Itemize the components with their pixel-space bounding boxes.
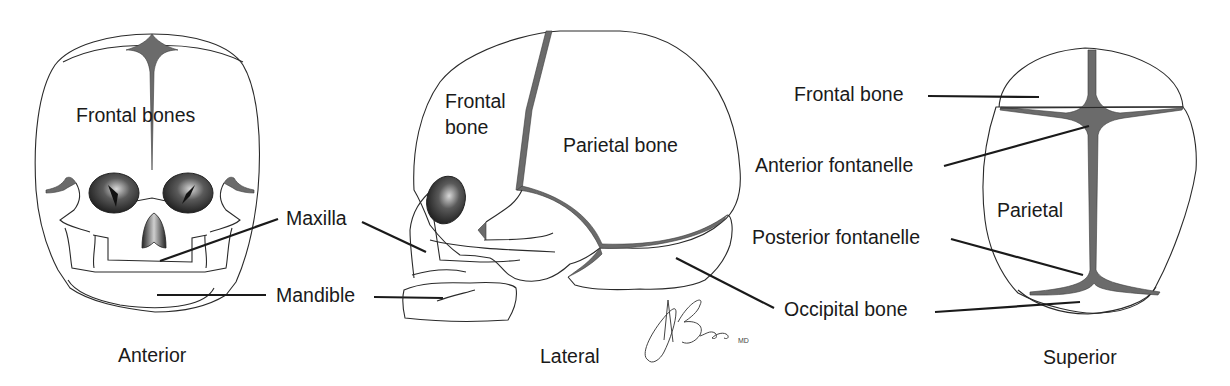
label-frontal-bones: Frontal bones: [76, 104, 195, 126]
callout-anterior-fontanelle: Anterior fontanelle: [755, 154, 913, 176]
label-parietal: Parietal: [997, 199, 1063, 221]
caption-lateral: Lateral: [540, 345, 600, 367]
frontal-bone-leader: [928, 96, 1039, 97]
caption-superior: Superior: [1043, 346, 1117, 368]
superior-skull: [983, 48, 1196, 314]
callout-frontal-bone: Frontal bone: [794, 83, 904, 105]
label-frontal-bone-lateral-1: Frontal: [445, 90, 506, 112]
mandible-leader-lateral: [374, 297, 443, 298]
callout-mandible: Mandible: [276, 284, 355, 306]
signature-suffix: MD: [738, 337, 749, 344]
callout-posterior-fontanelle: Posterior fontanelle: [752, 226, 920, 248]
callout-occipital-bone: Occipital bone: [784, 298, 908, 320]
maxilla-leader-lateral: [362, 222, 426, 252]
lateral-skull: MD: [403, 31, 749, 362]
label-parietal-bone: Parietal bone: [563, 134, 678, 156]
artist-signature: MD: [645, 300, 749, 362]
occipital-leader-lateral: [676, 258, 774, 308]
callout-maxilla: Maxilla: [286, 207, 347, 229]
anterior-skull: [35, 34, 259, 312]
caption-anterior: Anterior: [118, 344, 187, 366]
skull-diagram: Frontal bones Anterior Maxilla Mandible: [0, 0, 1230, 386]
label-frontal-bone-lateral-2: bone: [445, 116, 488, 138]
